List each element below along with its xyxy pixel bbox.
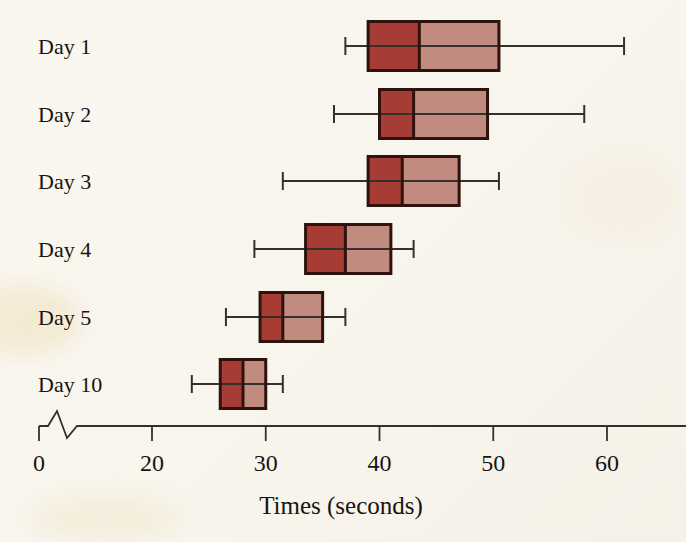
x-tick-label: 60 <box>595 450 619 476</box>
x-tick-label: 0 <box>33 450 45 476</box>
x-tick-label: 40 <box>368 450 392 476</box>
x-axis-title: Times (seconds) <box>259 492 423 520</box>
x-tick-label: 30 <box>254 450 278 476</box>
category-label-day-4: Day 4 <box>38 237 91 262</box>
x-tick-label: 50 <box>481 450 505 476</box>
category-label-day-5: Day 5 <box>38 305 91 330</box>
boxplot-chart: 02030405060Day 1Day 2Day 3Day 4Day 5Day … <box>0 0 686 542</box>
x-axis-line-with-break <box>39 411 686 438</box>
x-tick-label: 20 <box>140 450 164 476</box>
chart-generated-content: 02030405060Day 1Day 2Day 3Day 4Day 5Day … <box>33 22 686 477</box>
scanned-page: 02030405060Day 1Day 2Day 3Day 4Day 5Day … <box>0 0 686 542</box>
category-label-day-1: Day 1 <box>38 34 91 59</box>
category-label-day-2: Day 2 <box>38 102 91 127</box>
category-label-day-10: Day 10 <box>38 372 102 397</box>
category-label-day-3: Day 3 <box>38 169 91 194</box>
